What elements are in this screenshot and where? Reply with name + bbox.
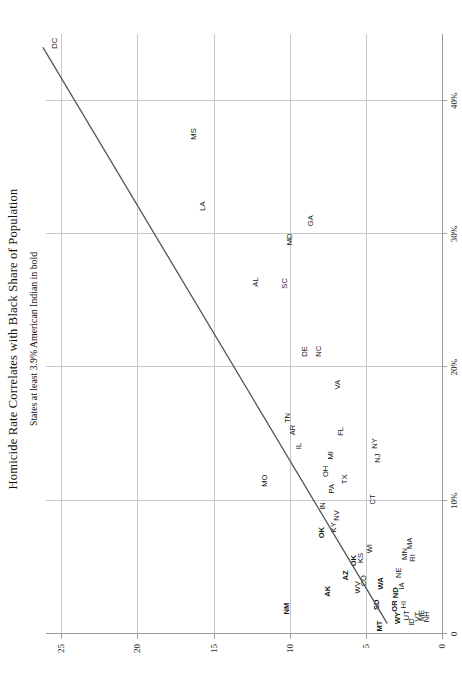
y-axis-tick-label: 20 <box>132 644 142 653</box>
chart-subtitle: States at least 3.9% American Indian in … <box>28 0 39 678</box>
y-axis-tick-label: 10 <box>285 644 295 653</box>
y-axis-tick <box>137 634 138 639</box>
trendline <box>46 34 442 634</box>
y-axis-tick-label: 25 <box>56 644 66 653</box>
y-axis-tick <box>290 634 291 639</box>
x-axis-tick <box>442 500 447 501</box>
y-axis-tick-label: 15 <box>209 644 219 653</box>
y-axis-tick <box>442 634 443 639</box>
y-axis-tick <box>61 634 62 639</box>
x-axis-spine <box>442 34 443 634</box>
x-axis-tick-label: 0 <box>449 632 459 637</box>
x-axis-tick <box>442 100 447 101</box>
y-axis-tick <box>214 634 215 639</box>
y-axis-tick <box>366 634 367 639</box>
title-block: Homicide Rate Correlates with Black Shar… <box>6 0 39 678</box>
chart-title: Homicide Rate Correlates with Black Shar… <box>6 0 21 678</box>
chart-canvas: Homicide Rate Correlates with Black Shar… <box>0 0 462 678</box>
rotated-figure: Homicide Rate Correlates with Black Shar… <box>0 0 462 678</box>
x-axis-tick <box>442 233 447 234</box>
y-axis-tick-label: 0 <box>437 644 447 649</box>
x-axis-tick-label: 30% <box>449 226 459 243</box>
x-axis-tick-label: 20% <box>449 359 459 376</box>
x-axis-tick-label: 40% <box>449 92 459 109</box>
x-axis-tick-label: 10% <box>449 492 459 509</box>
y-axis-tick-label: 5 <box>361 644 371 649</box>
x-axis-tick <box>442 366 447 367</box>
